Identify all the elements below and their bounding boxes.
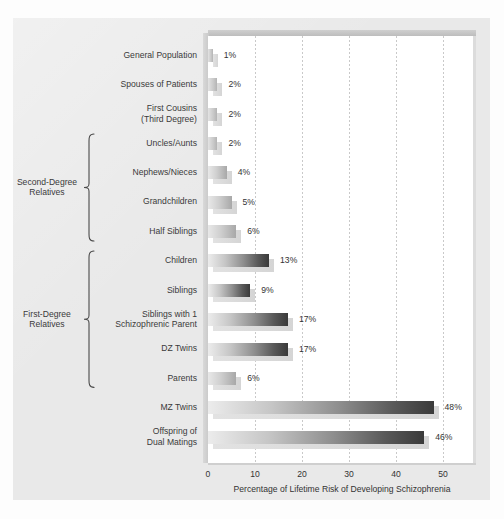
group-label: Second-Degree Relatives (14, 177, 80, 198)
bar-group (208, 78, 223, 97)
bar[interactable] (208, 196, 232, 209)
bar-value-label: 2% (228, 79, 240, 89)
category-label: MZ Twins (160, 402, 197, 413)
bar-group (208, 225, 242, 244)
bar[interactable] (208, 137, 217, 150)
x-axis-line (208, 463, 476, 465)
category-label: Spouses of Patients (121, 79, 197, 90)
bar[interactable] (208, 225, 236, 238)
category-label: Parents (167, 373, 197, 384)
bar-value-label: 6% (247, 373, 259, 383)
plot-right-edge (473, 36, 476, 463)
bar[interactable] (208, 431, 424, 444)
bar[interactable] (208, 372, 236, 385)
gridline-20 (302, 36, 303, 463)
gridline-10 (255, 36, 256, 463)
group-bracket (83, 133, 95, 242)
bar-value-label: 2% (228, 109, 240, 119)
category-label: Offspring of Dual Matings (147, 426, 197, 447)
bar-group (208, 49, 219, 68)
bar-group (208, 401, 440, 420)
category-label: General Population (123, 50, 197, 61)
bar-shadow (213, 54, 218, 67)
bar-group (208, 137, 223, 156)
x-tick-40: 40 (391, 469, 401, 479)
gridline-30 (349, 36, 350, 463)
category-label: Children (165, 255, 197, 266)
category-label: Uncles/Aunts (146, 138, 197, 149)
bar-value-label: 48% (445, 402, 462, 412)
bar-value-label: 17% (299, 344, 316, 354)
bar-group (208, 343, 294, 362)
bar[interactable] (208, 284, 250, 297)
bar-group (208, 431, 430, 450)
bar-group (208, 166, 233, 185)
bar-group (208, 372, 242, 391)
x-axis-title: Percentage of Lifetime Risk of Developin… (208, 484, 476, 494)
category-label: First Cousins (Third Degree) (141, 103, 197, 124)
category-label: Half Siblings (149, 226, 197, 237)
bar-value-label: 13% (280, 255, 297, 265)
schizophrenia-risk-chart: 1%2%2%2%4%5%6%13%9%17%17%6%48%46% Genera… (0, 0, 504, 519)
bar-value-label: 46% (435, 432, 452, 442)
bar[interactable] (208, 166, 227, 179)
bar-value-label: 6% (247, 226, 259, 236)
x-tick-20: 20 (297, 469, 307, 479)
bar[interactable] (208, 401, 434, 414)
bar-value-label: 17% (299, 314, 316, 324)
bar-value-label: 1% (224, 50, 236, 60)
gridline-40 (396, 36, 397, 463)
gridline-50 (443, 36, 444, 463)
category-label: Siblings (167, 285, 197, 296)
x-tick-0: 0 (206, 469, 211, 479)
bar[interactable] (208, 108, 217, 121)
bar-group (208, 196, 238, 215)
bar[interactable] (208, 343, 288, 356)
group-label: First-Degree Relatives (14, 309, 80, 330)
x-tick-10: 10 (250, 469, 260, 479)
bar[interactable] (208, 49, 213, 62)
category-label: Nephews/Nieces (133, 167, 197, 178)
category-label: Grandchildren (143, 196, 197, 207)
bar-group (208, 108, 223, 127)
bar-value-label: 9% (261, 285, 273, 295)
x-tick-30: 30 (344, 469, 354, 479)
bar[interactable] (208, 254, 269, 267)
bar[interactable] (208, 78, 217, 91)
bar-value-label: 2% (228, 138, 240, 148)
bar[interactable] (208, 313, 288, 326)
bar-group (208, 284, 256, 303)
category-label: Siblings with 1 Schizophrenic Parent (115, 309, 197, 330)
x-tick-50: 50 (438, 469, 448, 479)
bar-value-label: 5% (243, 197, 255, 207)
bar-group (208, 254, 275, 273)
bar-value-label: 4% (238, 167, 250, 177)
category-label: DZ Twins (161, 343, 197, 354)
plot-area (208, 36, 473, 463)
bar-group (208, 313, 294, 332)
group-bracket (83, 250, 95, 388)
